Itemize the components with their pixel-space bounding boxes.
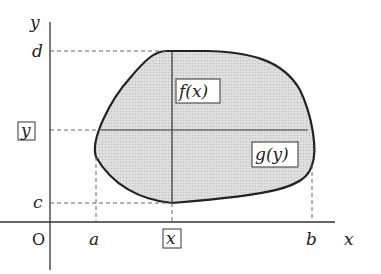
y-axis-label: y: [29, 12, 40, 32]
x-axis-label: x: [344, 229, 354, 249]
gy-label: g(y): [255, 144, 289, 164]
tick-a: a: [89, 229, 99, 249]
region-d: [95, 51, 314, 203]
boxed-x-label: x: [166, 228, 176, 248]
boxed-y-label: y: [20, 120, 31, 140]
fx-label: f(x): [177, 81, 208, 101]
diagram-canvas: y x O d c a b y x f(x) g(y): [0, 0, 381, 274]
origin-label: O: [32, 230, 45, 249]
tick-c: c: [33, 192, 43, 212]
tick-b: b: [306, 229, 317, 249]
tick-d: d: [32, 41, 43, 61]
